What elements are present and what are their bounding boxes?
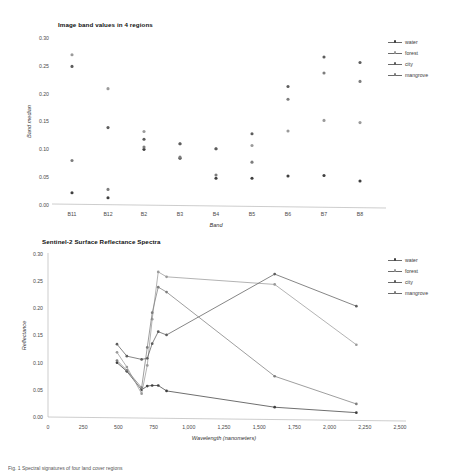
series-point [157, 384, 160, 387]
series-point [355, 403, 358, 406]
scatter-point [106, 87, 109, 90]
series-point [157, 286, 160, 289]
series-point [157, 330, 160, 333]
legend-marker-mangrove-icon [388, 71, 402, 78]
scatter-point [322, 174, 325, 177]
legend-marker-mangrove-icon [388, 289, 402, 296]
x-tick-label: 2,250 [358, 424, 371, 430]
scatter-point [358, 180, 361, 183]
legend-label-water: water [405, 39, 418, 45]
x-tick-label: 2,000 [323, 424, 336, 430]
scatter-point [178, 156, 181, 159]
scatter-point [358, 80, 361, 83]
legend-label-forest: forest [405, 268, 418, 274]
legend-marker-city-icon [388, 278, 402, 285]
scatter-point [250, 177, 253, 180]
x-tick-label: B5 [249, 211, 255, 217]
scatter-point [286, 129, 289, 132]
legend-item-city[interactable]: city [388, 276, 428, 287]
figure-caption: Fig. 1 Spectral signatures of four land … [8, 465, 123, 471]
legend-label-city: city [405, 279, 413, 285]
legend-item-mangrove[interactable]: mangrove [388, 69, 428, 80]
series-point [273, 283, 276, 286]
scatter-point [286, 85, 289, 88]
x-tick-label: B7 [321, 211, 327, 217]
series-point [151, 384, 154, 387]
y-tick-label: 0.30 [39, 35, 49, 41]
x-axis-title: Band [209, 222, 223, 228]
legend-item-water[interactable]: water [388, 36, 428, 47]
x-tick-label: 1,500 [253, 424, 266, 430]
legend-spectra: water forest city mangrove [388, 254, 428, 298]
y-tick-label: 0.00 [33, 414, 43, 420]
series-point [146, 385, 149, 388]
legend-marker-forest-icon [388, 267, 402, 274]
x-tick-label: 750 [149, 424, 158, 430]
scatter-point [322, 119, 325, 122]
legend-item-city[interactable]: city [388, 58, 428, 69]
legend-label-water: water [405, 257, 418, 263]
scatter-point [250, 161, 253, 164]
scatter-point [358, 61, 361, 64]
x-tick-label: B8 [357, 211, 363, 217]
series-point [151, 342, 154, 345]
y-tick-label: 0.25 [33, 278, 43, 284]
scatter-point [142, 130, 145, 133]
scatter-point [178, 142, 181, 145]
series-point [140, 358, 143, 361]
legend-item-water[interactable]: water [388, 254, 428, 265]
series-point [125, 369, 128, 372]
series-point [140, 392, 143, 395]
x-tick-label: B12 [103, 211, 112, 217]
legend-label-forest: forest [405, 50, 418, 56]
x-tick-label: B2 [141, 211, 147, 217]
series-point [355, 343, 358, 346]
x-tick-label: B6 [285, 211, 291, 217]
legend-item-mangrove[interactable]: mangrove [388, 287, 428, 298]
legend-item-forest[interactable]: forest [388, 47, 428, 58]
series-line [117, 272, 356, 394]
y-tick-label: 0.05 [33, 387, 43, 393]
series-point [273, 375, 276, 378]
series-point [165, 390, 168, 393]
series-point [273, 406, 276, 409]
x-tick-label: 2,500 [394, 424, 407, 430]
y-tick-label: 0.05 [39, 174, 49, 180]
x-tick-label: 1,000 [182, 424, 195, 430]
scatter-point [142, 146, 145, 149]
series-point [146, 364, 149, 367]
scatter-point [214, 173, 217, 176]
scatter-plot-area: 0.000.050.100.150.200.250.30B11B12B2B3B4… [0, 0, 467, 232]
x-tick-label: 1,250 [218, 424, 231, 430]
legend-marker-water-icon [388, 256, 402, 263]
legend-marker-city-icon [388, 60, 402, 67]
y-tick-label: 0.30 [33, 251, 43, 257]
y-tick-label: 0.10 [39, 146, 49, 152]
series-point [140, 386, 143, 389]
scatter-point [358, 121, 361, 124]
scatter-point [250, 144, 253, 147]
y-tick-label: 0.20 [33, 305, 43, 311]
x-tick-label: 500 [114, 424, 123, 430]
series-point [355, 305, 358, 308]
x-axis-line [52, 204, 386, 208]
series-point [273, 273, 276, 276]
scatter-point [250, 132, 253, 135]
legend-label-city: city [405, 61, 413, 67]
y-tick-label: 0.15 [39, 118, 49, 124]
series-point [165, 334, 168, 337]
scatter-point [70, 159, 73, 162]
scatter-point [322, 72, 325, 75]
series-point [116, 343, 119, 346]
x-tick-label: B11 [68, 211, 77, 217]
scatter-point [286, 175, 289, 178]
scatter-point [106, 196, 109, 199]
scatter-point [70, 65, 73, 68]
scatter-point [214, 147, 217, 150]
legend-item-forest[interactable]: forest [388, 265, 428, 276]
figure-band-values: Image band values in 4 regions 0.000.050… [0, 0, 467, 232]
legend-marker-forest-icon [388, 49, 402, 56]
scatter-point [106, 126, 109, 129]
series-point [165, 291, 168, 294]
series-point [116, 359, 119, 362]
